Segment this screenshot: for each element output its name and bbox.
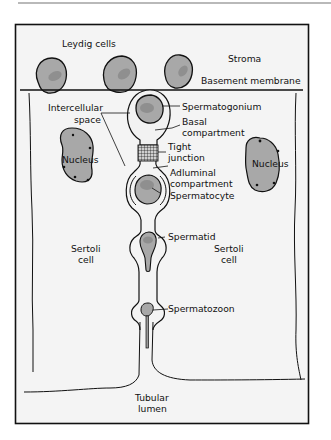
spermatozoon-tail (146, 316, 149, 348)
label-basement-membrane: Basement membrane (201, 75, 301, 86)
tight-junction (138, 145, 158, 161)
label-sertoli-right-1: Sertoli (214, 243, 244, 254)
leydig-cell-1 (36, 58, 66, 93)
label-nucleus-left: Nucleus (62, 154, 99, 165)
label-spermatozoon: Spermatozoon (168, 303, 235, 314)
seminiferous-tubule-diagram: Leydig cells Stroma Basement membrane In… (0, 0, 331, 440)
label-sertoli-right-2: cell (221, 254, 237, 265)
label-intercellular-space-2: space (74, 114, 101, 125)
label-tight-junction-1: Tight (167, 141, 192, 152)
label-tight-junction-2: junction (167, 152, 205, 163)
leydig-cell-2 (103, 56, 136, 92)
label-leydig-cells: Leydig cells (62, 38, 116, 49)
label-basal-compartment-1: Basal (182, 116, 207, 127)
label-adluminal-compartment-1: Adluminal (170, 167, 216, 178)
label-tubular-lumen-2: lumen (138, 403, 167, 414)
label-sertoli-left-2: cell (78, 254, 94, 265)
label-intercellular-space-1: Intercellular (48, 102, 103, 113)
label-stroma: Stroma (228, 53, 261, 64)
label-spermatid: Spermatid (168, 231, 216, 242)
label-basal-compartment-2: compartment (182, 127, 245, 138)
label-spermatocyte: Spermatocyte (170, 190, 235, 201)
leydig-cell-3 (165, 55, 193, 88)
label-tubular-lumen-1: Tubular (134, 392, 169, 403)
label-nucleus-right: Nucleus (252, 158, 289, 169)
spermatozoon-head (141, 303, 153, 316)
label-spermatogonium: Spermatogonium (182, 101, 261, 112)
label-sertoli-left-1: Sertoli (71, 243, 101, 254)
label-adluminal-compartment-2: compartment (170, 178, 233, 189)
